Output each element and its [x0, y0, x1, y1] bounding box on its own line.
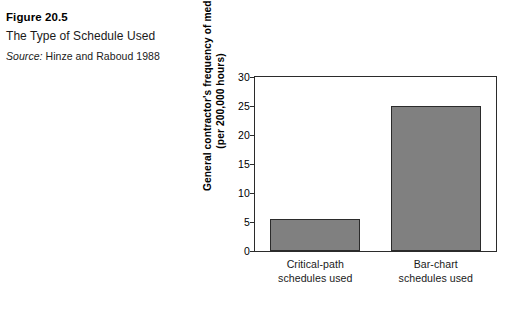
- y-axis-tick-mark: [250, 222, 255, 223]
- x-axis-category-label-line: schedules used: [255, 271, 376, 285]
- x-axis-category-label-line: Bar-chart: [376, 257, 497, 271]
- source-label: Source:: [6, 50, 43, 62]
- bar-chart: General contractor's frequency of medica…: [186, 0, 510, 318]
- y-axis-tick-mark: [250, 164, 255, 165]
- figure-title: The Type of Schedule Used: [6, 28, 184, 44]
- y-axis-tick-label: 0: [204, 246, 250, 257]
- y-axis-tick-label: 5: [204, 217, 250, 228]
- x-axis-category-label-line: schedules used: [376, 271, 497, 285]
- figure-number: Figure 20.5: [6, 10, 184, 25]
- x-axis-category-label-line: Critical-path: [255, 257, 376, 271]
- bar: [270, 219, 360, 251]
- x-axis-category-label: Bar-chartschedules used: [376, 257, 497, 285]
- figure-source: Source: Hinze and Raboud 1988: [6, 49, 184, 63]
- y-axis-tick-label: 25: [204, 101, 250, 112]
- y-axis-tick-mark: [250, 251, 255, 252]
- y-axis-tick-mark: [250, 77, 255, 78]
- figure-caption-block: Figure 20.5 The Type of Schedule Used So…: [6, 10, 184, 63]
- y-axis-tick-label: 15: [204, 159, 250, 170]
- y-axis-tick-mark: [250, 135, 255, 136]
- source-citation: Hinze and Raboud 1988: [46, 50, 160, 62]
- y-axis-tick-label: 30: [204, 72, 250, 83]
- plot-frame: 051015202530Critical-pathschedules usedB…: [254, 76, 497, 252]
- y-axis-tick-label: 20: [204, 130, 250, 141]
- bar: [391, 106, 481, 251]
- y-axis-tick-label: 10: [204, 188, 250, 199]
- x-axis-category-label: Critical-pathschedules used: [255, 257, 376, 285]
- y-axis-tick-mark: [250, 106, 255, 107]
- y-axis-tick-mark: [250, 193, 255, 194]
